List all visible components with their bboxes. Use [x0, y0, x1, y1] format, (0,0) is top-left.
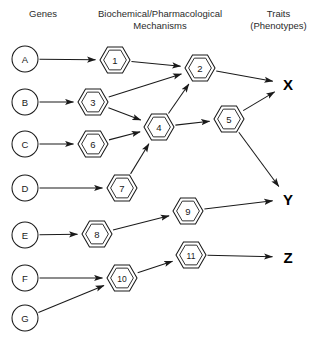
mechanism-label: 1: [112, 55, 117, 66]
mechanism-label: 4: [156, 122, 161, 133]
edge-A-to-1: [40, 59, 96, 60]
edge-3-to-4: [108, 108, 140, 120]
mechanism-label: 6: [90, 139, 95, 150]
edge-4-to-5: [175, 121, 209, 125]
edge-2-to-X: [216, 71, 273, 81]
edge-11-to-Z: [208, 255, 273, 256]
mechanism-label: 10: [117, 274, 127, 284]
gene-node-G: G: [12, 305, 38, 331]
diagram-canvas: ABCDEFG1234567891011XYZ: [0, 0, 321, 338]
mechanism-node-10: 10: [107, 265, 137, 291]
mechanism-node-4: 4: [144, 114, 174, 140]
edge-6-to-4: [109, 132, 140, 140]
trait-label: Z: [283, 249, 292, 266]
gene-trait-diagram: Genes Biochemical/Pharmacological Mechan…: [0, 0, 321, 338]
mechanism-node-1: 1: [100, 47, 130, 73]
mechanism-node-5: 5: [214, 106, 244, 132]
mechanism-node-3: 3: [78, 89, 108, 115]
gene-label: C: [22, 139, 29, 150]
trait-node-Z: Z: [283, 249, 292, 266]
gene-node-B: B: [12, 89, 38, 115]
mechanism-label: 8: [94, 229, 99, 240]
edge-4-to-2: [168, 84, 188, 113]
gene-node-C: C: [12, 131, 38, 157]
edge-layer: [38, 59, 278, 312]
gene-label: E: [22, 230, 28, 241]
mechanism-node-7: 7: [107, 175, 137, 201]
trait-node-Y: Y: [283, 191, 293, 208]
mechanism-node-8: 8: [82, 221, 112, 247]
edge-7-to-4: [131, 144, 149, 174]
mechanism-label: 11: [187, 251, 196, 261]
mechanism-label: 9: [185, 206, 190, 217]
gene-label: A: [22, 54, 29, 65]
mechanism-node-6: 6: [78, 131, 108, 157]
gene-node-A: A: [12, 46, 38, 72]
mechanism-label: 3: [90, 97, 95, 108]
edge-9-to-Y: [204, 201, 272, 209]
edge-5-to-X: [243, 92, 274, 111]
mechanism-node-11: 11: [176, 242, 206, 268]
gene-node-F: F: [12, 265, 38, 291]
gene-label: B: [22, 97, 28, 108]
mechanism-node-2: 2: [185, 55, 215, 81]
gene-node-E: E: [12, 222, 38, 248]
gene-label: G: [21, 313, 28, 324]
mechanism-label: 2: [197, 63, 202, 74]
trait-node-X: X: [283, 76, 293, 93]
gene-node-D: D: [12, 175, 38, 201]
trait-label: X: [283, 76, 293, 93]
edge-G-to-10: [38, 285, 104, 312]
edge-8-to-9: [113, 216, 169, 230]
edge-10-to-11: [138, 261, 173, 273]
mechanism-node-9: 9: [173, 198, 203, 224]
gene-label: F: [22, 273, 28, 284]
mechanism-label: 5: [226, 114, 231, 125]
edge-1-to-2: [131, 62, 180, 67]
edge-E-to-8: [40, 234, 78, 235]
mechanism-label: 7: [119, 183, 124, 194]
trait-label: Y: [283, 191, 293, 208]
gene-label: D: [22, 183, 29, 194]
edge-5-to-Y: [239, 132, 279, 186]
edge-3-to-2: [109, 74, 182, 97]
